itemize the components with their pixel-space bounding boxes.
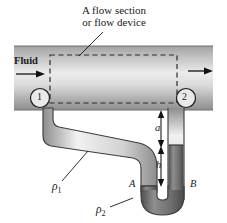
rho2-leader-line bbox=[110, 198, 133, 207]
point-b-label: B bbox=[190, 178, 196, 190]
dimension-a-label: a bbox=[155, 122, 160, 134]
point-a-label: A bbox=[129, 178, 135, 190]
caption-line-2: or flow device bbox=[59, 16, 169, 28]
flow-measurement-manometer-figure: A flow section or flow device Fluid 1 2 … bbox=[0, 0, 227, 223]
dimension-h-label: h bbox=[156, 159, 161, 171]
rho1-leader-line bbox=[62, 151, 88, 181]
caption-line-1: A flow section bbox=[59, 4, 169, 16]
right-limb-fluid-column bbox=[169, 145, 184, 190]
density-2-subscript: 2 bbox=[102, 209, 106, 218]
fluid-inlet-label: Fluid bbox=[14, 55, 38, 67]
density-1-subscript: 1 bbox=[58, 186, 62, 195]
station-1-label: 1 bbox=[37, 91, 42, 102]
station-2-label: 2 bbox=[182, 91, 187, 102]
density-2-label: ρ2 bbox=[96, 203, 106, 219]
u-bend-manometer-fluid bbox=[141, 186, 184, 215]
figure-caption: A flow section or flow device bbox=[59, 4, 169, 29]
density-1-label: ρ1 bbox=[52, 180, 62, 196]
